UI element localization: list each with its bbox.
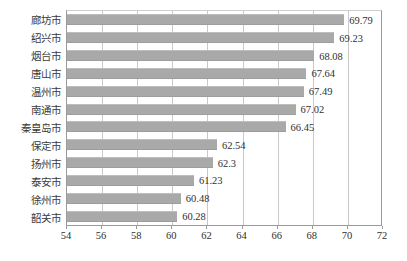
bar-row: 60.28 [67,207,381,225]
bar-value-label: 62.54 [217,139,246,150]
axis-tick-mark [171,226,172,229]
bar-value-label: 67.64 [306,68,335,79]
category-label: 保定市 [0,136,64,154]
axis-tick-label: 54 [61,230,72,241]
bar-value-label: 60.48 [181,193,210,204]
bar-row: 69.23 [67,29,381,47]
category-label: 烟台市 [0,46,64,64]
bar-row: 60.48 [67,189,381,207]
category-label: 温州市 [0,82,64,100]
bar-value-label: 60.28 [177,211,206,222]
axis-tick-label: 60 [166,230,177,241]
bar-value-label: 62.3 [213,157,236,168]
value-axis: 54565860626466687072 [66,226,382,248]
category-label: 徐州市 [0,190,64,208]
bar-row: 68.08 [67,47,381,65]
axis-tick-mark [347,226,348,229]
axis-tick-label: 70 [342,230,353,241]
bar-row: 66.45 [67,118,381,136]
axis-tick-mark [242,226,243,229]
bar [67,50,314,61]
category-axis-labels: 廊坊市绍兴市烟台市唐山市温州市南通市秦皇岛市保定市扬州市泰安市徐州市韶关市 [0,10,64,226]
horizontal-bar-chart: 廊坊市绍兴市烟台市唐山市温州市南通市秦皇岛市保定市扬州市泰安市徐州市韶关市 69… [0,0,407,261]
bar [67,14,344,25]
bar [67,157,213,168]
axis-tick-label: 58 [131,230,142,241]
bar-rows: 69.7969.2368.0867.6467.4967.0266.4562.54… [67,11,381,225]
bar [67,32,334,43]
bar-value-label: 69.23 [334,32,363,43]
axis-tick-label: 64 [236,230,247,241]
bar-row: 67.64 [67,64,381,82]
bar-value-label: 66.45 [286,121,315,132]
bar-row: 69.79 [67,11,381,29]
bar [67,193,181,204]
bar [67,211,177,222]
category-label: 秦皇岛市 [0,118,64,136]
bar-value-label: 61.23 [194,175,223,186]
bar-value-label: 67.02 [296,104,325,115]
axis-tick-label: 62 [201,230,212,241]
bar-row: 67.02 [67,100,381,118]
bar [67,121,286,132]
axis-tick-mark [136,226,137,229]
category-label: 南通市 [0,100,64,118]
axis-tick-label: 68 [307,230,318,241]
bar-row: 67.49 [67,82,381,100]
bar-row: 61.23 [67,171,381,189]
axis-tick-label: 56 [96,230,107,241]
axis-tick-mark [101,226,102,229]
axis-tick-mark [206,226,207,229]
category-label: 绍兴市 [0,28,64,46]
bar-row: 62.54 [67,136,381,154]
bar-value-label: 69.79 [344,14,373,25]
bar-value-label: 68.08 [314,50,343,61]
bar [67,175,194,186]
bar [67,139,217,150]
axis-tick-mark [277,226,278,229]
axis-tick-mark [66,226,67,229]
bar [67,104,296,115]
category-label: 唐山市 [0,64,64,82]
bar [67,68,306,79]
plot-area: 69.7969.2368.0867.6467.4967.0266.4562.54… [66,10,382,226]
bar [67,86,304,97]
category-label: 廊坊市 [0,10,64,28]
axis-tick-mark [382,226,383,229]
axis-tick-label: 72 [377,230,388,241]
category-label: 扬州市 [0,154,64,172]
category-label: 韶关市 [0,208,64,226]
axis-tick-mark [312,226,313,229]
category-label: 泰安市 [0,172,64,190]
bar-value-label: 67.49 [304,86,333,97]
bar-row: 62.3 [67,154,381,172]
axis-tick-label: 66 [271,230,282,241]
